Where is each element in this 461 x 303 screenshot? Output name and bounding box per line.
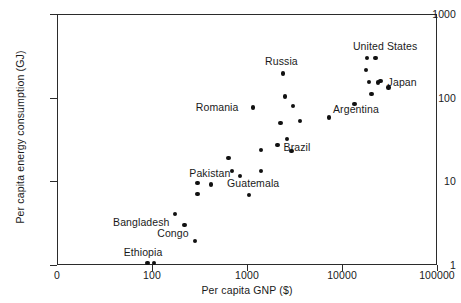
data-point <box>289 149 293 153</box>
data-point <box>195 181 199 185</box>
x-tick-label: 100000 <box>402 270 461 281</box>
data-point-label: Guatemala <box>227 178 279 189</box>
x-tick-label: 1000 <box>212 270 282 281</box>
x-tick-label: 10000 <box>307 270 377 281</box>
y-axis-title: Per capita energy consumption (GJ) <box>14 7 26 267</box>
y-tick-mark <box>50 265 57 266</box>
data-point <box>298 119 302 123</box>
data-point <box>367 80 371 84</box>
data-point <box>365 56 369 60</box>
y-tick-mark <box>50 181 57 182</box>
data-point-label: Argentina <box>333 104 379 115</box>
x-axis-origin-label: 0 <box>22 270 92 281</box>
data-point <box>386 85 390 89</box>
data-point <box>352 102 356 106</box>
x-tick-label: 100 <box>117 270 187 281</box>
data-point-label: Pakistan <box>189 168 230 179</box>
data-point-label: United States <box>353 41 417 52</box>
data-point <box>378 79 382 83</box>
data-point-label: Brazil <box>284 142 311 153</box>
data-point <box>281 71 285 75</box>
data-point-label: Ethiopia <box>124 247 163 258</box>
data-point <box>327 115 331 119</box>
data-point <box>369 92 373 96</box>
data-point-label: Japan <box>388 77 417 88</box>
data-point <box>373 56 377 60</box>
data-point <box>209 182 213 186</box>
data-point <box>195 192 199 196</box>
y-tick-mark <box>50 14 57 15</box>
data-point-label: Romania <box>196 102 239 113</box>
y-tick-label: 1000 <box>412 9 456 20</box>
data-point-label: Congo <box>157 228 188 239</box>
y-tick-label: 10 <box>412 176 456 187</box>
data-point <box>278 121 282 125</box>
y-tick-label: 100 <box>412 93 456 104</box>
data-point <box>283 94 287 98</box>
data-point <box>364 68 368 72</box>
y-tick-mark <box>50 98 57 99</box>
data-point <box>251 105 255 109</box>
data-point <box>226 156 230 160</box>
data-point-label: Russia <box>265 56 298 67</box>
x-axis-title: Per capita GNP ($) <box>57 284 437 296</box>
